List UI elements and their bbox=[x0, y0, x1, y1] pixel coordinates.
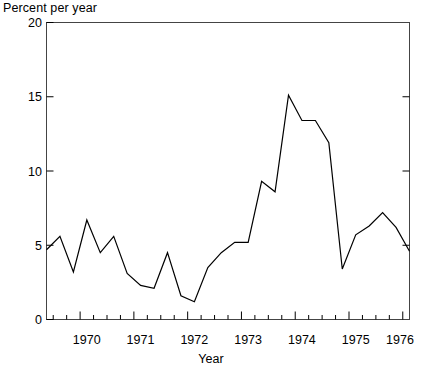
y-tick-label: 10 bbox=[28, 165, 42, 179]
x-tick-label-group: 1970 1971 1972 1973 1974 1975 1976 bbox=[73, 333, 414, 347]
x-tick-label: 1974 bbox=[288, 333, 316, 347]
x-tick-label: 1971 bbox=[127, 333, 155, 347]
chart-plot-area: 20 15 10 5 0 1970 1971 1972 1973 1974 19… bbox=[0, 0, 422, 372]
x-axis-title: Year bbox=[0, 352, 422, 366]
y-tick-label: 0 bbox=[35, 313, 42, 327]
y-tick-label-group: 20 15 10 5 0 bbox=[28, 16, 42, 327]
x-tick-label: 1972 bbox=[180, 333, 208, 347]
chart-figure: Percent per year 20 15 10 5 0 1970 bbox=[0, 0, 422, 372]
y-tick-label: 15 bbox=[28, 90, 42, 104]
x-tick-label: 1973 bbox=[234, 333, 262, 347]
x-tick-label: 1975 bbox=[342, 333, 370, 347]
y-tick-label: 5 bbox=[35, 239, 42, 253]
plot-border bbox=[47, 23, 410, 320]
x-tick-label: 1976 bbox=[386, 333, 414, 347]
y-tick-label: 20 bbox=[28, 16, 42, 30]
x-tick-label: 1970 bbox=[73, 333, 101, 347]
